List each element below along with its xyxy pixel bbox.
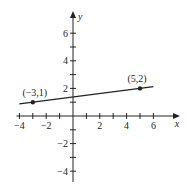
x-tick-label: 6 xyxy=(151,120,156,131)
x-axis-label: x xyxy=(174,118,180,129)
x-tick-label: 4 xyxy=(124,120,129,131)
y-axis-arrow-icon xyxy=(70,11,76,18)
y-tick-label: 4 xyxy=(63,55,68,66)
data-point xyxy=(31,100,35,104)
y-tick-label: −4 xyxy=(57,166,68,177)
x-tick-label: 2 xyxy=(97,120,102,131)
y-tick-label: −2 xyxy=(57,138,68,149)
point-label: (5,2) xyxy=(127,73,146,85)
y-axis-label: y xyxy=(77,11,83,22)
data-point xyxy=(138,86,142,90)
coordinate-plane: xy−4−2246642−2−4(−3,1)(5,2) xyxy=(0,0,188,192)
y-tick-label: 6 xyxy=(63,28,68,39)
point-label: (−3,1) xyxy=(22,87,47,99)
y-tick-label: 2 xyxy=(63,83,68,94)
x-tick-label: −2 xyxy=(41,120,52,131)
x-tick-label: −4 xyxy=(14,120,25,131)
